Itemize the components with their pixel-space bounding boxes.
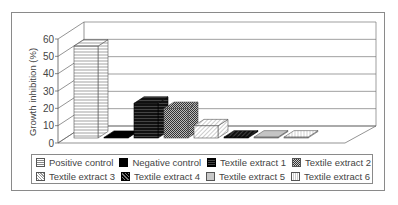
legend-label: Textile extract 5	[219, 171, 285, 182]
y-tick-label: 20	[43, 103, 55, 114]
bar-textile-extract-4	[224, 131, 258, 138]
legend-item-textile-extract-2: Textile extract 2	[292, 157, 371, 168]
bar-textile-extract-1	[134, 97, 168, 138]
bars	[74, 40, 318, 138]
y-tick-label: 40	[43, 68, 55, 79]
y-tick-label: 60	[43, 34, 55, 45]
legend-item-textile-extract-3: Textile extract 3	[36, 171, 115, 182]
legend-item-textile-extract-4: Textile extract 4	[121, 171, 200, 182]
legend-row-1: Positive control Negative control Textil…	[36, 157, 370, 168]
legend-item-textile-extract-5: Textile extract 5	[206, 171, 285, 182]
bar-positive-control	[74, 40, 108, 138]
vertical-lines-swatch-icon	[291, 172, 300, 181]
checkered-swatch-icon	[292, 158, 301, 167]
legend-item-textile-extract-6: Textile extract 6	[291, 171, 370, 182]
y-tick-label: 50	[43, 51, 55, 62]
light-diagonal-swatch-icon	[36, 172, 45, 181]
legend-label: Textile extract 3	[49, 171, 115, 182]
legend-label: Textile extract 2	[305, 157, 371, 168]
bar-textile-extract-5	[254, 131, 288, 138]
y-tick-label: 30	[43, 86, 55, 97]
legend-label: Textile extract 4	[134, 171, 200, 182]
bar-textile-extract-2	[164, 102, 198, 138]
legend-item-negative-control: Negative control	[119, 157, 201, 168]
legend-label: Textile extract 1	[220, 157, 286, 168]
bar-negative-control	[104, 131, 138, 138]
legend-label: Negative control	[132, 157, 201, 168]
y-tick-label: 0	[48, 138, 54, 149]
legend-item-textile-extract-1: Textile extract 1	[207, 157, 286, 168]
y-axis-label: Growth inhibition (%)	[27, 48, 38, 136]
bar-textile-extract-6	[284, 131, 318, 138]
legend-label: Textile extract 6	[304, 171, 370, 182]
y-tick-label: 10	[43, 120, 55, 131]
black-stripes-swatch-icon	[207, 158, 216, 167]
legend-item-positive-control: Positive control	[36, 157, 113, 168]
legend-row-2: Textile extract 3 Textile extract 4 Text…	[36, 171, 370, 182]
gray-swatch-icon	[206, 172, 215, 181]
solid-black-swatch-icon	[119, 158, 128, 167]
legend: Positive control Negative control Textil…	[31, 154, 373, 184]
dark-diagonal-swatch-icon	[121, 172, 130, 181]
bar-textile-extract-3	[194, 119, 228, 138]
horizontal-lines-swatch-icon	[36, 158, 45, 167]
legend-label: Positive control	[49, 157, 113, 168]
